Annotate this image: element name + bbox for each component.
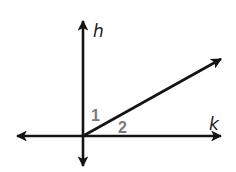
label-h: h [93, 21, 104, 41]
angle-1-label: 1 [91, 107, 100, 124]
label-k: k [209, 114, 220, 134]
angle-2-label: 2 [118, 119, 127, 136]
ray [83, 59, 221, 136]
angle-diagram: h k 1 2 [0, 0, 236, 172]
